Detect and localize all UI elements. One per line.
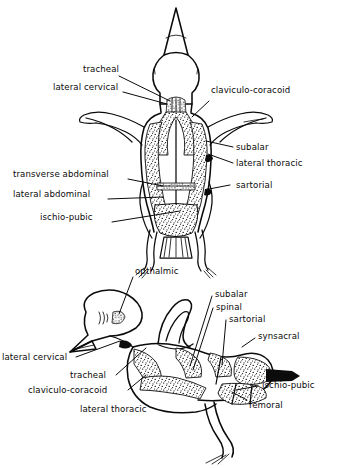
label-spinal-bottom: spinal	[216, 302, 242, 312]
leader-sartorial-top	[209, 185, 230, 189]
label-lateral-thoracic-bottom: lateral thoracic	[80, 404, 147, 414]
right-wing-upper	[208, 112, 273, 127]
eye-mark-3	[107, 314, 108, 322]
left-wing-inner	[86, 118, 132, 142]
label-lateral-cervical-bottom: lateral cervical	[2, 352, 67, 362]
label-ischio-pubic-bottom: ischio-pubic	[262, 380, 315, 390]
label-synsacral-bottom: synsacral	[258, 331, 300, 341]
label-lateral-cervical-top: lateral cervical	[53, 82, 118, 92]
head-lateral	[70, 290, 142, 352]
label-opthalmic-bottom: opthalmic	[135, 266, 179, 276]
label-sartorial-bottom: sartorial	[229, 314, 265, 324]
transverse-abdominal-band	[157, 183, 195, 190]
left-leg-ventral	[144, 230, 150, 270]
subalar-sac-lateral	[176, 348, 202, 378]
lateral-cervical-mark	[119, 341, 132, 349]
leader-tracheal-top	[119, 76, 170, 101]
label-claviculo-coracoid-top: claviculo-coracoid	[211, 85, 290, 95]
ischio-pubic-sac	[154, 204, 198, 237]
leader-opthalmic-bottom	[119, 277, 133, 314]
beak-ventral	[164, 8, 188, 55]
left-wing-lower	[96, 123, 142, 145]
beak-lateral	[70, 341, 96, 352]
anatomical-figure	[0, 0, 339, 468]
right-leg-ventral	[202, 230, 208, 270]
eye-mark-1	[99, 312, 101, 324]
label-subalar-bottom: subalar	[215, 289, 248, 299]
left-wing-upper	[80, 112, 145, 127]
leader-lateral-cervical-bottom	[76, 341, 120, 357]
label-tracheal-top: tracheal	[83, 64, 119, 74]
label-femoral-bottom: femoral	[249, 400, 283, 410]
right-foot-ventral	[204, 268, 216, 278]
label-transverse-abdominal-top: transverse abdominal	[13, 169, 109, 179]
leader-claviculo-coracoid-top	[192, 101, 209, 117]
wing-lateral-outer	[158, 300, 192, 347]
label-lateral-abdominal-top: lateral abdominal	[13, 189, 90, 199]
opthalmic-sac	[112, 311, 125, 324]
wing-lateral-inner	[166, 312, 189, 343]
lateral-thoracic-sac-lateral	[140, 376, 206, 399]
label-sartorial-top: sartorial	[236, 180, 272, 190]
eye-mark-2	[103, 312, 105, 324]
label-lateral-thoracic-top: lateral thoracic	[236, 158, 303, 168]
label-claviculo-coracoid-bottom: claviculo-coracoid	[28, 385, 107, 395]
tail-fan-lines	[164, 238, 188, 257]
label-tracheal-bottom: tracheal	[70, 370, 106, 380]
label-ischio-pubic-top: ischio-pubic	[40, 212, 93, 222]
foot-lateral	[206, 454, 229, 464]
leader-synsacral-bottom	[242, 338, 255, 347]
label-subalar-top: subalar	[236, 142, 269, 152]
leg-lateral-front	[205, 404, 223, 458]
right-wing-inner	[220, 118, 266, 142]
leader-subalar-bottom	[190, 296, 212, 366]
